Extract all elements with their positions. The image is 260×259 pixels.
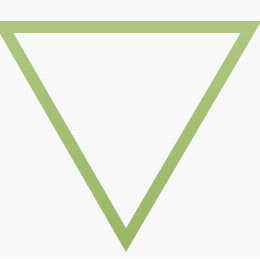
image-canvas [0, 0, 260, 259]
triangle-shape-svg [0, 0, 260, 259]
background-rect [0, 0, 260, 259]
